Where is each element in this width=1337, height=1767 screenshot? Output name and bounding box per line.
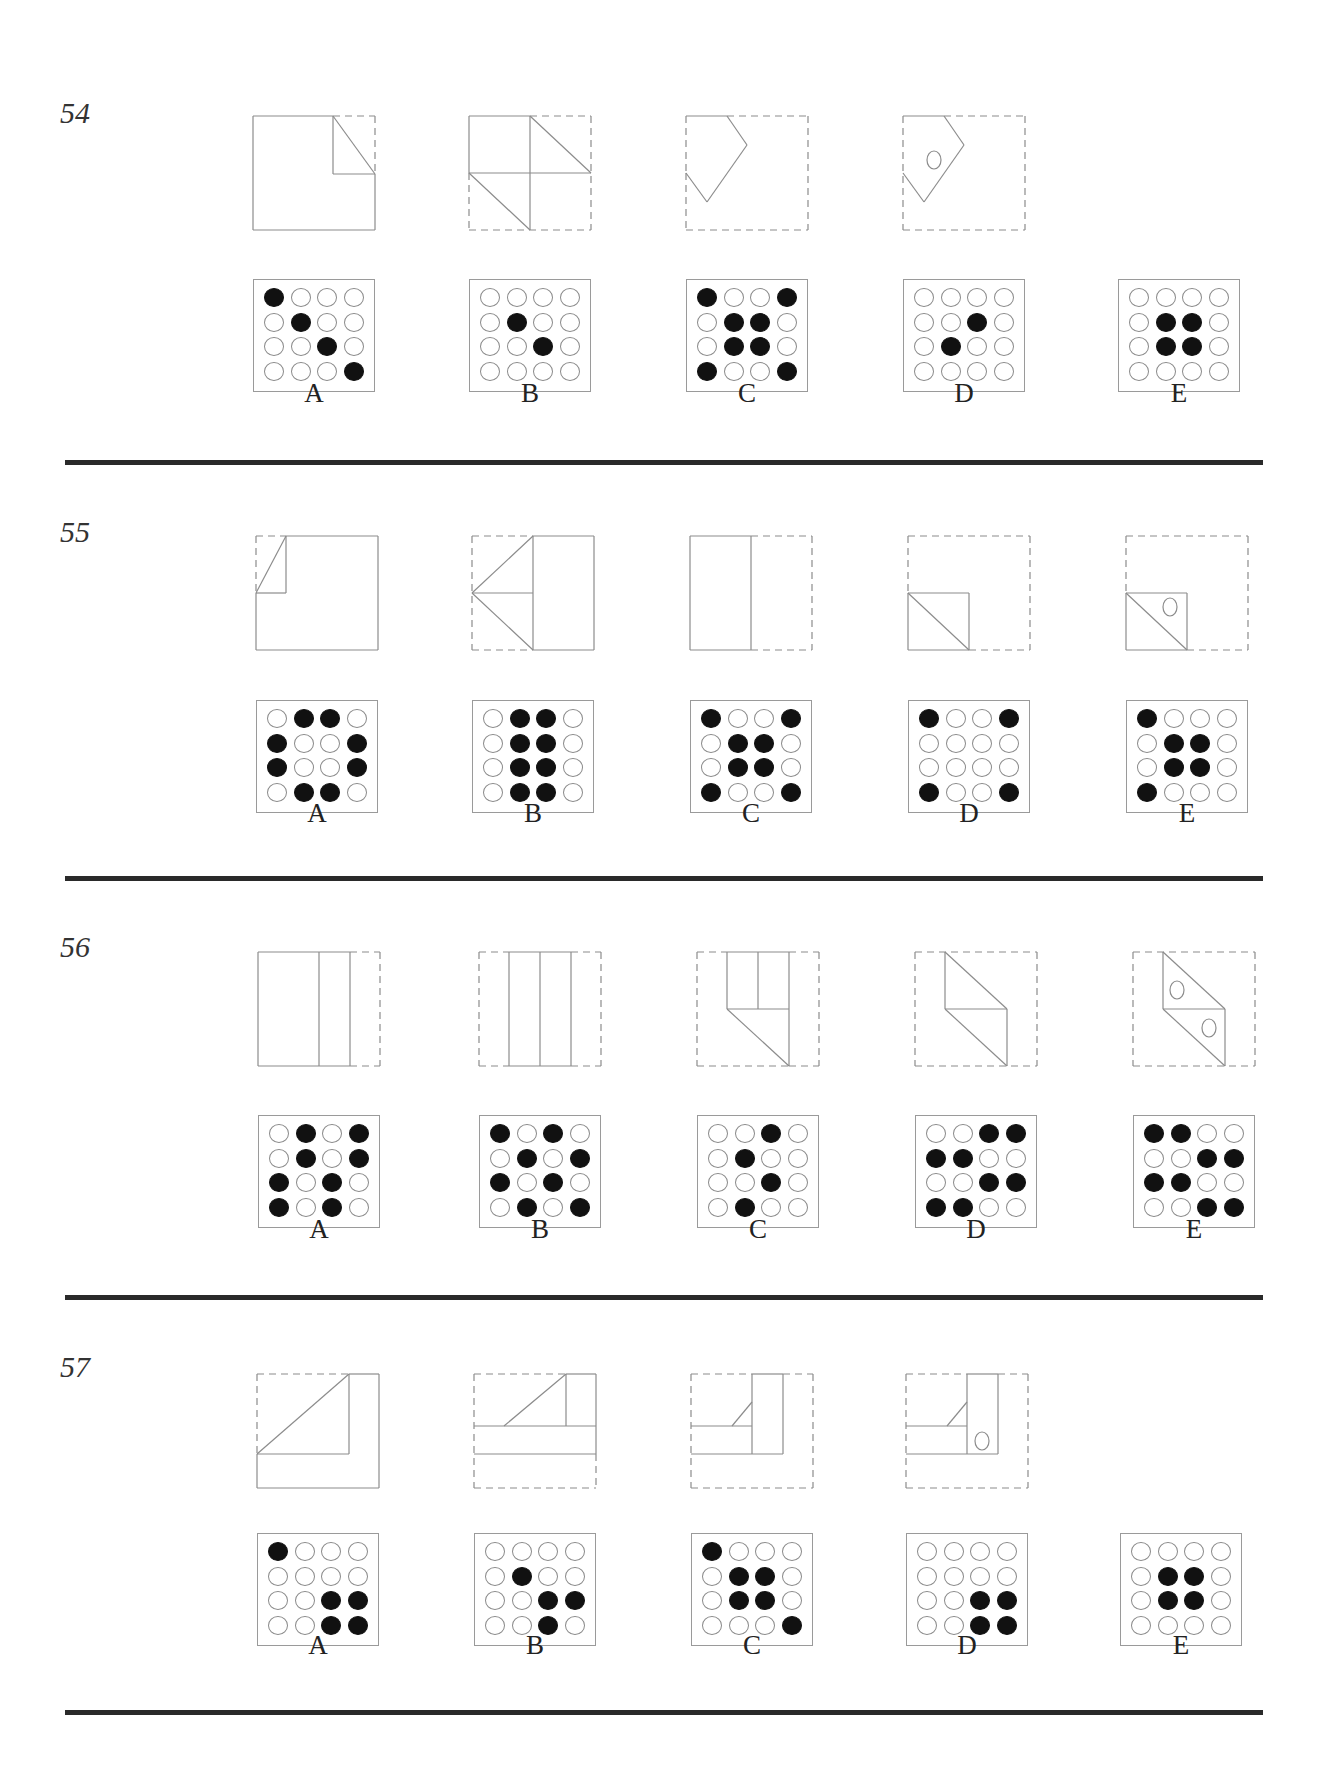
empty-hole-icon <box>735 1173 755 1192</box>
filled-hole-icon <box>321 1591 341 1610</box>
filled-hole-icon <box>1182 337 1202 356</box>
filled-hole-icon <box>754 734 774 753</box>
filled-hole-icon <box>1184 1567 1204 1586</box>
option-label[interactable]: E <box>1133 1214 1255 1245</box>
answer-option-a[interactable] <box>256 700 378 813</box>
empty-hole-icon <box>729 1542 749 1561</box>
empty-hole-icon <box>735 1124 755 1143</box>
answer-option-d[interactable] <box>915 1115 1037 1228</box>
empty-hole-icon <box>697 337 717 356</box>
empty-hole-icon <box>997 1542 1017 1561</box>
filled-hole-icon <box>1171 1173 1191 1192</box>
empty-hole-icon <box>563 734 583 753</box>
filled-hole-icon <box>729 1567 749 1586</box>
empty-hole-icon <box>1144 1149 1164 1168</box>
filled-hole-icon <box>729 1591 749 1610</box>
answer-option-b[interactable] <box>472 700 594 813</box>
empty-hole-icon <box>777 337 797 356</box>
empty-hole-icon <box>953 1124 973 1143</box>
section-divider <box>65 1295 1263 1300</box>
option-label[interactable]: A <box>256 798 378 829</box>
answer-option-e[interactable] <box>1126 700 1248 813</box>
empty-hole-icon <box>697 313 717 332</box>
option-label[interactable]: E <box>1118 378 1240 409</box>
empty-hole-icon <box>264 313 284 332</box>
answer-option-d[interactable] <box>908 700 1030 813</box>
filled-hole-icon <box>979 1173 999 1192</box>
option-label[interactable]: E <box>1120 1630 1242 1661</box>
empty-hole-icon <box>344 337 364 356</box>
empty-hole-icon <box>269 1124 289 1143</box>
option-label[interactable]: C <box>690 798 812 829</box>
empty-hole-icon <box>997 1567 1017 1586</box>
empty-hole-icon <box>755 1542 775 1561</box>
option-label[interactable]: B <box>474 1630 596 1661</box>
filled-hole-icon <box>296 1149 316 1168</box>
answer-option-c[interactable] <box>697 1115 819 1228</box>
option-label[interactable]: A <box>257 1630 379 1661</box>
empty-hole-icon <box>344 288 364 307</box>
option-label[interactable]: E <box>1126 798 1248 829</box>
punched-hole-icon <box>1163 598 1177 616</box>
filled-hole-icon <box>701 709 721 728</box>
answer-option-a[interactable] <box>253 279 375 392</box>
punched-hole-icon <box>975 1432 989 1450</box>
empty-hole-icon <box>1209 313 1229 332</box>
answer-option-e[interactable] <box>1118 279 1240 392</box>
option-label[interactable]: D <box>903 378 1025 409</box>
empty-hole-icon <box>294 734 314 753</box>
filled-hole-icon <box>348 1591 368 1610</box>
filled-hole-icon <box>267 758 287 777</box>
empty-hole-icon <box>268 1591 288 1610</box>
empty-hole-icon <box>967 288 987 307</box>
filled-hole-icon <box>761 1124 781 1143</box>
option-label[interactable]: B <box>472 798 594 829</box>
option-label[interactable]: D <box>915 1214 1037 1245</box>
punched-hole-icon <box>1170 981 1184 999</box>
empty-hole-icon <box>979 1149 999 1168</box>
answer-option-d[interactable] <box>903 279 1025 392</box>
empty-hole-icon <box>533 288 553 307</box>
filled-hole-icon <box>761 1173 781 1192</box>
answer-option-c[interactable] <box>686 279 808 392</box>
option-label[interactable]: D <box>906 1630 1028 1661</box>
filled-hole-icon <box>750 313 770 332</box>
option-label[interactable]: B <box>469 378 591 409</box>
option-label[interactable]: C <box>697 1214 819 1245</box>
filled-hole-icon <box>517 1149 537 1168</box>
filled-hole-icon <box>294 709 314 728</box>
empty-hole-icon <box>708 1124 728 1143</box>
fold-diagram-step-3 <box>686 116 808 230</box>
empty-hole-icon <box>264 337 284 356</box>
filled-hole-icon <box>750 337 770 356</box>
filled-hole-icon <box>755 1591 775 1610</box>
option-label[interactable]: C <box>686 378 808 409</box>
option-label[interactable]: A <box>253 378 375 409</box>
answer-option-c[interactable] <box>690 700 812 813</box>
empty-hole-icon <box>543 1149 563 1168</box>
filled-hole-icon <box>536 709 556 728</box>
empty-hole-icon <box>322 1124 342 1143</box>
empty-hole-icon <box>917 1591 937 1610</box>
filled-hole-icon <box>1184 1591 1204 1610</box>
option-label[interactable]: A <box>258 1214 380 1245</box>
answer-option-a[interactable] <box>258 1115 380 1228</box>
option-label[interactable]: B <box>479 1214 601 1245</box>
option-label[interactable]: C <box>691 1630 813 1661</box>
empty-hole-icon <box>533 313 553 332</box>
answer-option-e[interactable] <box>1133 1115 1255 1228</box>
answer-option-b[interactable] <box>479 1115 601 1228</box>
empty-hole-icon <box>295 1591 315 1610</box>
empty-hole-icon <box>941 288 961 307</box>
section-divider <box>65 876 1263 881</box>
empty-hole-icon <box>1224 1124 1244 1143</box>
empty-hole-icon <box>485 1542 505 1561</box>
filled-hole-icon <box>510 709 530 728</box>
filled-hole-icon <box>264 288 284 307</box>
answer-option-b[interactable] <box>469 279 591 392</box>
empty-hole-icon <box>320 734 340 753</box>
empty-hole-icon <box>320 758 340 777</box>
option-label[interactable]: D <box>908 798 1030 829</box>
empty-hole-icon <box>296 1173 316 1192</box>
filled-hole-icon <box>919 709 939 728</box>
